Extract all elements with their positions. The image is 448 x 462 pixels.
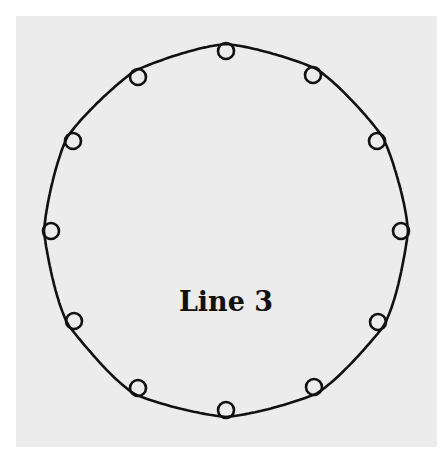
loop-1: [218, 43, 234, 59]
loop-7: [218, 402, 234, 418]
loop-8: [130, 380, 146, 396]
ring-path: [44, 44, 408, 417]
loop-6: [306, 379, 322, 395]
line-label: Line 3: [150, 286, 302, 317]
loop-2: [305, 67, 321, 83]
loop-5: [370, 314, 386, 330]
loop-3: [369, 133, 385, 149]
loop-12: [130, 69, 146, 85]
loop-11: [65, 133, 81, 149]
loop-10: [43, 223, 59, 239]
ring-line: [44, 44, 408, 417]
loop-9: [66, 313, 82, 329]
loop-4: [393, 223, 409, 239]
ring-diagram: [0, 0, 448, 462]
